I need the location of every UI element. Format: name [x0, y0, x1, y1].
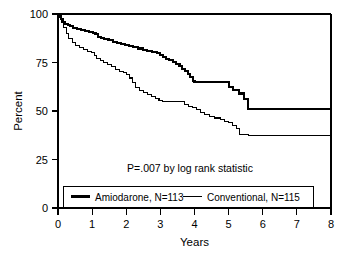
y-axis-title: Percent — [12, 90, 24, 130]
x-tick-label-8: 8 — [328, 218, 334, 230]
x-tick-label-6: 6 — [260, 218, 266, 230]
curve-conventional — [58, 14, 331, 135]
chart-legend: Amiodarone, N=113 Conventional, N=115 — [63, 186, 313, 207]
x-tick-label-0: 0 — [55, 218, 61, 230]
y-axis-tick-labels: 100 75 50 25 0 — [30, 8, 48, 214]
x-axis-ticks — [58, 208, 331, 215]
y-tick-label-0: 0 — [42, 202, 48, 214]
x-tick-label-3: 3 — [157, 218, 163, 230]
legend-label-conventional: Conventional, N=115 — [207, 192, 300, 203]
x-axis-title: Years — [180, 236, 209, 248]
kaplan-meier-figure: 100 75 50 25 0 0 1 2 3 4 5 6 7 8 — [0, 0, 353, 259]
y-axis-ticks — [52, 14, 58, 208]
p-value-annotation: P=.007 by log rank statistic — [127, 162, 253, 174]
y-tick-label-25: 25 — [36, 154, 48, 166]
x-tick-label-7: 7 — [294, 218, 300, 230]
x-tick-label-1: 1 — [89, 218, 95, 230]
curve-amiodarone — [58, 14, 331, 110]
y-tick-label-75: 75 — [36, 57, 48, 69]
axes-frame — [58, 14, 331, 208]
x-tick-label-4: 4 — [191, 218, 197, 230]
survival-chart-svg: 100 75 50 25 0 0 1 2 3 4 5 6 7 8 — [0, 0, 353, 259]
x-tick-label-5: 5 — [226, 218, 232, 230]
x-tick-label-2: 2 — [123, 218, 129, 230]
x-axis-tick-labels: 0 1 2 3 4 5 6 7 8 — [55, 218, 334, 230]
y-tick-label-50: 50 — [36, 105, 48, 117]
y-tick-label-100: 100 — [30, 8, 48, 20]
survival-curves — [58, 14, 331, 135]
legend-label-amiodarone: Amiodarone, N=113 — [95, 192, 184, 203]
